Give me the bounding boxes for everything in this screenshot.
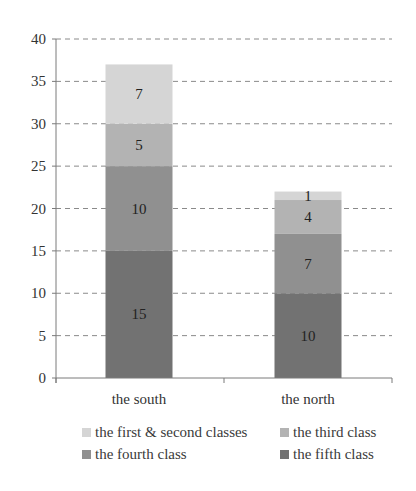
bar-value-label: 1: [304, 188, 312, 204]
y-tick-label: 0: [39, 370, 47, 386]
bar-value-label: 4: [304, 209, 312, 225]
y-tick-label: 35: [31, 73, 46, 89]
bar-value-label: 15: [132, 306, 147, 322]
y-tick-label: 10: [31, 285, 46, 301]
y-tick-label: 30: [31, 116, 46, 132]
bar-value-label: 7: [304, 256, 312, 272]
y-tick-label: 25: [31, 158, 46, 174]
bar-value-label: 7: [135, 86, 143, 102]
x-axis-labels: the souththe north: [112, 391, 336, 407]
bar-value-label: 10: [301, 328, 316, 344]
stacked-bar-chart: 0510152025303540 15105710741 the southth…: [0, 0, 416, 491]
x-tick-label: the north: [281, 391, 335, 407]
y-tick-label: 15: [31, 243, 46, 259]
y-axis-ticks: 0510152025303540: [31, 31, 56, 386]
bar-value-label: 5: [135, 137, 143, 153]
y-tick-label: 20: [31, 201, 46, 217]
bars: 15105710741: [106, 64, 342, 378]
y-tick-label: 40: [31, 31, 46, 47]
x-tick-label: the south: [112, 391, 167, 407]
y-tick-label: 5: [39, 328, 47, 344]
bar-value-label: 10: [132, 201, 147, 217]
